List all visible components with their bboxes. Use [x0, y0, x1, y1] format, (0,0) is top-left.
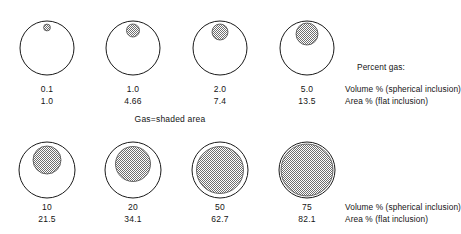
- gas-inclusion-5: [33, 146, 61, 174]
- volume-label-4: 5.0: [301, 84, 313, 94]
- gas-shaded-area-caption: Gas=shaded area: [135, 114, 206, 124]
- gas-inclusion-4: [296, 23, 318, 45]
- area-label-5: 21.5: [38, 214, 55, 224]
- legend-area-top: Area % (flat inclusion): [345, 96, 428, 106]
- gas-inclusion-8: [281, 144, 333, 196]
- area-label-6: 34.1: [124, 214, 141, 224]
- legend-volume-bottom: Volume % (spherical inclusion): [345, 202, 461, 212]
- gas-inclusion-1: [44, 24, 51, 31]
- legend-area-bottom: Area % (flat inclusion): [345, 214, 428, 224]
- area-label-1: 1.0: [41, 96, 53, 106]
- volume-label-6: 20: [128, 202, 138, 212]
- legend-volume-top: Volume % (spherical inclusion): [345, 84, 461, 94]
- percent-gas-heading: Percent gas:: [357, 62, 405, 72]
- volume-label-7: 50: [215, 202, 225, 212]
- gas-inclusion-7: [197, 147, 244, 194]
- area-label-7: 62.7: [211, 214, 228, 224]
- area-label-4: 13.5: [298, 96, 315, 106]
- volume-label-2: 1.0: [127, 84, 139, 94]
- gas-inclusion-2: [127, 24, 140, 37]
- gas-inclusion-3: [212, 24, 228, 40]
- area-label-2: 4.66: [124, 96, 141, 106]
- area-label-8: 82.1: [298, 214, 315, 224]
- volume-label-1: 0.1: [41, 84, 53, 94]
- volume-label-5: 10: [42, 202, 52, 212]
- area-label-3: 7.4: [214, 96, 226, 106]
- volume-label-3: 2.0: [214, 84, 226, 94]
- gas-inclusion-6: [116, 147, 151, 182]
- volume-label-8: 75: [302, 202, 312, 212]
